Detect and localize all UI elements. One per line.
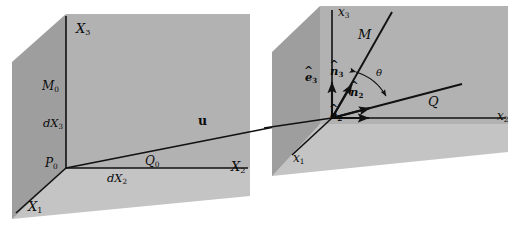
reference-segment-dX2-label: dX2	[107, 173, 127, 185]
unit-vector-e2-label: ^e2	[330, 110, 342, 122]
reference-axis-X1-label: X1	[28, 200, 42, 215]
angle-theta-label: θ	[376, 68, 382, 78]
unit-vector-n3-label: ^n3	[330, 66, 343, 78]
deformed-axis-x1-label: x1	[293, 152, 305, 166]
displacement-vector-u-label: u	[198, 115, 207, 128]
deformed-point-M-label: M	[358, 28, 371, 41]
unit-vector-n2-label: ^n2	[350, 87, 363, 99]
unit-vector-e3-label: ^e3	[305, 72, 317, 84]
reference-point-Q0-label: Q0	[145, 155, 160, 169]
reference-segment-dX3-label: dX3	[43, 118, 63, 130]
reference-axis-X2-label: X2	[231, 160, 245, 175]
deformed-configuration-group	[264, 6, 508, 176]
figure-canvas: X3 X2 X1 M0 P0 Q0 dX3 dX2 u x3 x2 x1 M Q…	[0, 0, 526, 229]
reference-axis-X3-label: X3	[76, 22, 90, 37]
deformed-point-Q-label: Q	[428, 95, 439, 108]
deformed-back-wall	[320, 6, 508, 124]
deformed-axis-x3-label: x3	[338, 6, 350, 20]
reference-back-wall	[66, 14, 250, 168]
deformed-axis-x2-label: x2	[497, 110, 509, 124]
reference-point-P0-label: P0	[45, 157, 58, 171]
reference-point-M0-label: M0	[42, 80, 59, 94]
